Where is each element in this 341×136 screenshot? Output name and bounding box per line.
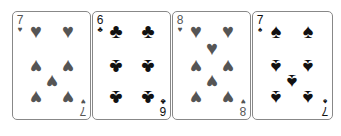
clubs-icon: ♣ <box>158 97 168 105</box>
card-index-top: 7♥ <box>15 15 25 34</box>
hearts-pip-icon: ♥ <box>26 21 46 41</box>
hearts-pip-icon: ♥ <box>58 88 78 108</box>
card-index-top: 7♠ <box>255 15 265 34</box>
card-6-of-clubs[interactable]: 6♣ 6♣ ♣♣♣♣♣♣ <box>92 11 171 120</box>
clubs-pip-icon: ♣ <box>138 57 158 77</box>
clubs-pip-icon: ♣ <box>106 21 126 41</box>
spades-icon: ♠ <box>255 26 265 34</box>
clubs-pip-icon: ♣ <box>106 57 126 77</box>
card-7-of-hearts[interactable]: 7♥ 7♥ ♥♥♥♥♥♥♥ <box>12 11 91 120</box>
hearts-pip-icon: ♥ <box>58 21 78 41</box>
spades-pip-icon: ♠ <box>298 88 318 108</box>
clubs-pip-icon: ♣ <box>138 88 158 108</box>
hearts-pip-icon: ♥ <box>26 88 46 108</box>
hearts-icon: ♥ <box>175 26 185 34</box>
card-8-of-hearts[interactable]: 8♥ 8♥ ♥♥♥♥♥♥♥♥ <box>172 11 251 120</box>
clubs-pip-icon: ♣ <box>138 21 158 41</box>
clubs-pip-icon: ♣ <box>106 88 126 108</box>
rank-label: 8 <box>238 105 248 116</box>
hearts-pip-icon: ♥ <box>218 88 238 108</box>
clubs-icon: ♣ <box>95 26 105 34</box>
hearts-pip-icon: ♥ <box>186 88 206 108</box>
rank-label: 7 <box>78 105 88 116</box>
spades-pip-icon: ♠ <box>298 21 318 41</box>
spades-pip-icon: ♠ <box>266 21 286 41</box>
card-index-bottom: 7♥ <box>78 97 88 116</box>
rank-label: 7 <box>320 105 330 116</box>
spades-pip-icon: ♠ <box>266 88 286 108</box>
hearts-icon: ♥ <box>15 26 25 34</box>
rank-label: 6 <box>158 105 168 116</box>
card-index-bottom: 8♥ <box>238 97 248 116</box>
card-7-of-spades[interactable]: 7♠ 7♠ ♠♠♠♠♠♠♠ <box>252 11 333 120</box>
card-index-bottom: 6♣ <box>158 97 168 116</box>
card-index-top: 8♥ <box>175 15 185 34</box>
card-index-bottom: 7♠ <box>320 97 330 116</box>
card-index-top: 6♣ <box>95 15 105 34</box>
hearts-pip-icon: ♥ <box>202 38 222 58</box>
